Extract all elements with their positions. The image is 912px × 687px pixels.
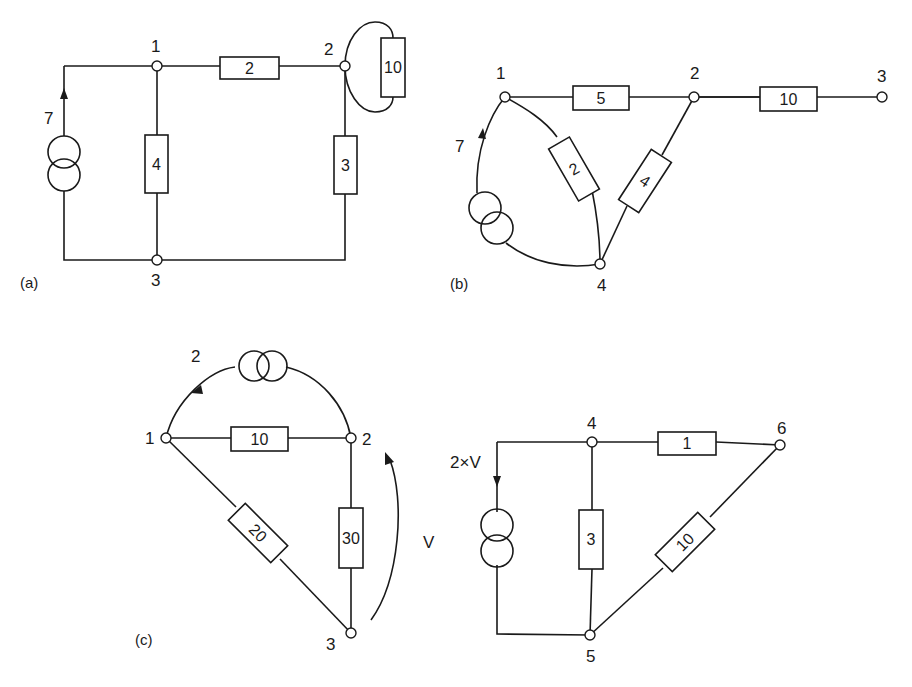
source-value-c: 2 — [191, 347, 200, 366]
svg-text:30: 30 — [342, 530, 360, 547]
svg-text:10: 10 — [780, 91, 798, 108]
svg-text:1: 1 — [683, 435, 692, 452]
wire — [477, 97, 505, 193]
caption-c: (c) — [135, 631, 153, 648]
resistor-30: 30 — [339, 508, 363, 568]
node-2 — [346, 433, 356, 443]
node-1 — [152, 61, 162, 71]
arrow-up-icon — [60, 88, 68, 99]
node-label: 3 — [877, 67, 886, 86]
current-source-c — [257, 351, 287, 381]
svg-text:10: 10 — [251, 431, 269, 448]
wire — [710, 445, 780, 517]
resistor-5: 5 — [573, 86, 629, 110]
resistor-2: 2 — [549, 137, 600, 201]
node-2 — [340, 61, 350, 71]
resistor-1: 1 — [658, 432, 716, 455]
wire — [280, 559, 351, 633]
current-source-b — [481, 212, 513, 244]
resistor-3: 3 — [579, 510, 603, 569]
wire — [64, 191, 345, 260]
wire — [716, 442, 780, 445]
dependent-source-value: 2×V — [450, 453, 481, 472]
current-source-a — [48, 159, 80, 191]
svg-text:2: 2 — [245, 60, 254, 77]
circuit-figure: 7 2 4 3 10 1 2 3 (a) — [0, 0, 912, 687]
svg-text:10: 10 — [384, 59, 402, 76]
node-label: 3 — [151, 271, 160, 290]
node-label: 3 — [326, 635, 335, 654]
resistor-2: 2 — [220, 57, 279, 79]
wire — [286, 367, 351, 438]
wire — [590, 568, 663, 635]
resistor-10: 10 — [760, 87, 817, 111]
wire — [505, 97, 557, 137]
circuit-c: 2 10 20 30 V 1 2 3 (c) — [135, 347, 786, 666]
node-label: 2 — [324, 40, 333, 59]
node-label: 4 — [587, 414, 596, 433]
dependent-source — [481, 535, 513, 567]
svg-text:5: 5 — [597, 90, 606, 107]
wire — [506, 243, 600, 266]
node-label: 1 — [151, 37, 160, 56]
resistor-10: 10 — [655, 512, 714, 571]
resistor-4: 4 — [145, 135, 168, 193]
arrow-down-icon — [493, 476, 501, 487]
arrow-up-icon — [385, 452, 394, 465]
node-6 — [775, 440, 785, 450]
node-4 — [595, 259, 605, 269]
source-value-b: 7 — [455, 137, 464, 156]
wire — [497, 565, 590, 635]
resistor-20: 20 — [228, 503, 287, 562]
node-1 — [161, 433, 171, 443]
resistor-10: 10 — [231, 427, 288, 451]
node-5 — [585, 630, 595, 640]
node-3 — [877, 92, 887, 102]
node-2 — [689, 92, 699, 102]
circuit-a: 7 2 4 3 10 1 2 3 (a) — [20, 22, 405, 291]
wire — [590, 569, 592, 635]
node-label: 2 — [690, 64, 699, 83]
wire — [166, 438, 236, 507]
node-3 — [346, 628, 356, 638]
node-label: 1 — [496, 64, 505, 83]
dependent-source — [481, 509, 513, 541]
current-source-b — [469, 192, 501, 224]
circuit-b: 7 5 10 2 4 1 2 3 4 (b) — [450, 64, 887, 295]
voltage-label: V — [423, 533, 435, 552]
node-1 — [500, 92, 510, 102]
svg-text:3: 3 — [341, 157, 350, 174]
resistor-3: 3 — [334, 136, 357, 194]
resistor-4: 4 — [619, 149, 672, 212]
node-3 — [152, 255, 162, 265]
caption-a: (a) — [20, 274, 38, 291]
wire — [662, 97, 694, 155]
caption-b: (b) — [450, 275, 468, 292]
svg-text:3: 3 — [587, 531, 596, 548]
current-source-c — [239, 351, 269, 381]
node-label: 5 — [586, 647, 595, 666]
resistor-10: 10 — [381, 38, 405, 97]
node-label: 4 — [597, 276, 606, 295]
voltage-arrow — [371, 460, 398, 620]
wire — [166, 367, 235, 438]
svg-text:4: 4 — [152, 156, 161, 173]
wire — [592, 190, 600, 264]
node-4 — [587, 437, 597, 447]
wire — [600, 206, 627, 264]
source-value-a: 7 — [44, 109, 53, 128]
node-label: 1 — [145, 429, 154, 448]
node-label: 2 — [362, 430, 371, 449]
node-label: 6 — [777, 419, 786, 438]
